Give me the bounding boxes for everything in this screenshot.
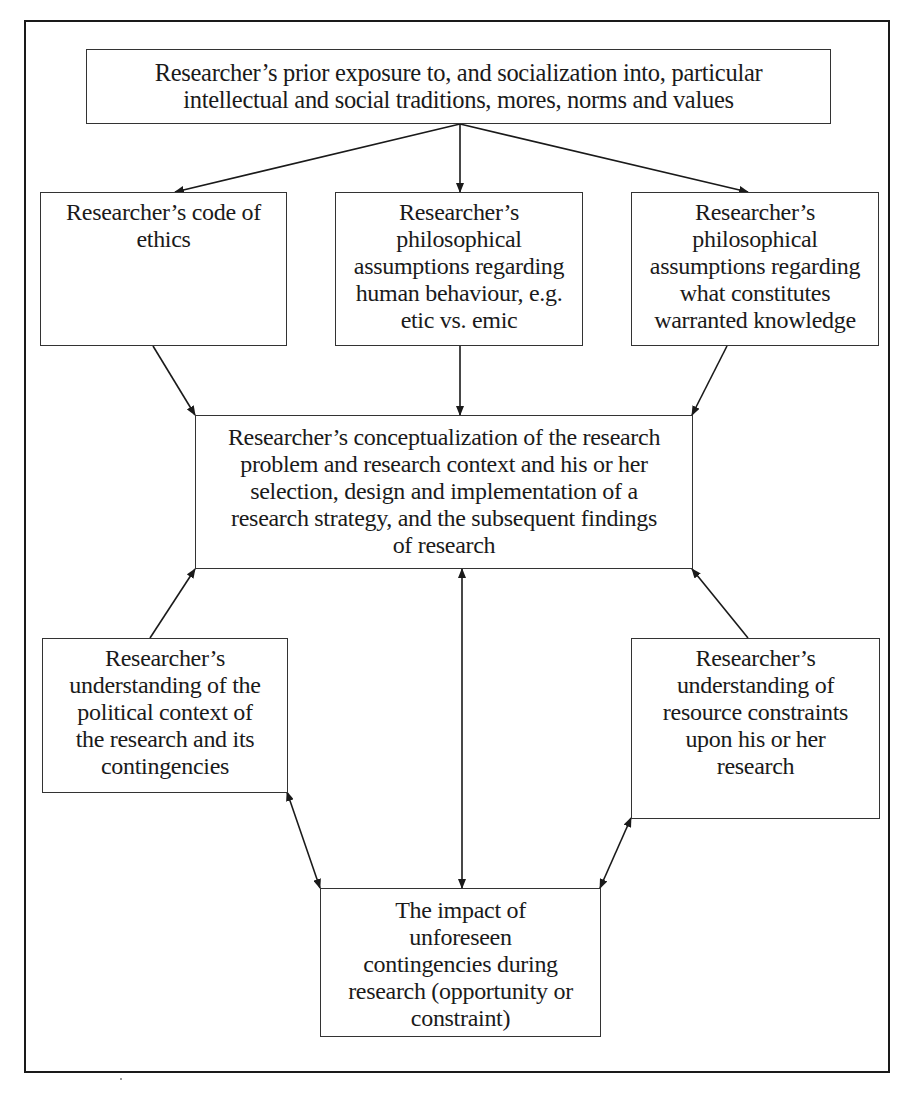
scan-speck <box>120 1078 122 1080</box>
node-text-line: human behaviour, e.g. <box>336 280 582 307</box>
node-text-line: contingencies during <box>321 951 600 978</box>
node-text-line: The impact of <box>321 897 600 924</box>
node-code-of-ethics: Researcher’s code of ethics <box>40 192 287 346</box>
node-text-line: political context of <box>43 699 287 726</box>
node-text-line: assumptions regarding <box>632 253 878 280</box>
node-text-line: warranted knowledge <box>632 307 878 334</box>
node-text-line: assumptions regarding <box>336 253 582 280</box>
node-text-line: ethics <box>41 226 286 253</box>
node-text-line: Researcher’s prior exposure to, and soci… <box>87 59 830 86</box>
node-text-line: Researcher’s conceptualization of the re… <box>196 424 692 451</box>
node-conceptualization: Researcher’s conceptualization of the re… <box>195 415 693 569</box>
node-text-line: Researcher’s <box>336 199 582 226</box>
node-text-line: understanding of <box>632 672 879 699</box>
node-human-behaviour-assumptions: Researcher’s philosophical assumptions r… <box>335 192 583 346</box>
node-text-line: intellectual and social traditions, more… <box>87 86 830 113</box>
node-text-line: the research and its <box>43 726 287 753</box>
node-text-line: research <box>632 753 879 780</box>
node-text-line: of research <box>196 532 692 559</box>
node-text-line: Researcher’s <box>43 645 287 672</box>
node-text-line: etic vs. emic <box>336 307 582 334</box>
node-warranted-knowledge-assumptions: Researcher’s philosophical assumptions r… <box>631 192 879 346</box>
node-text-line: philosophical <box>632 226 878 253</box>
node-unforeseen-contingencies: The impact of unforeseen contingencies d… <box>320 888 601 1037</box>
node-text-line: upon his or her <box>632 726 879 753</box>
node-text-line: Researcher’s <box>632 199 878 226</box>
node-text-line: resource constraints <box>632 699 879 726</box>
node-text-line: selection, design and implementation of … <box>196 478 692 505</box>
node-text-line: understanding of the <box>43 672 287 699</box>
node-text-line: constraint) <box>321 1005 600 1032</box>
node-political-context: Researcher’s understanding of the politi… <box>42 638 288 793</box>
node-text-line: research (opportunity or <box>321 978 600 1005</box>
node-text-line: unforeseen <box>321 924 600 951</box>
node-text-line: Researcher’s code of <box>41 199 286 226</box>
node-resource-constraints: Researcher’s understanding of resource c… <box>631 638 880 819</box>
node-text-line: research strategy, and the subsequent fi… <box>196 505 692 532</box>
node-text-line: Researcher’s <box>632 645 879 672</box>
node-socialization: Researcher’s prior exposure to, and soci… <box>86 49 831 124</box>
node-text-line: contingencies <box>43 753 287 780</box>
node-text-line: problem and research context and his or … <box>196 451 692 478</box>
node-text-line: what constitutes <box>632 280 878 307</box>
node-text-line: philosophical <box>336 226 582 253</box>
